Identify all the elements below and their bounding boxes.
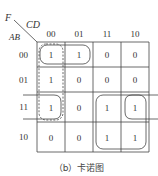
- karnaugh-map: F CD AB 0001111000011110 110010001011001…: [0, 0, 158, 176]
- cell-value: 0: [105, 50, 110, 60]
- row-vars-label: AB: [8, 32, 20, 42]
- cell-value: 0: [77, 133, 82, 143]
- col-label: 11: [103, 29, 112, 39]
- cell-value: 0: [133, 50, 138, 60]
- group-row11-wrap-right: [125, 95, 158, 119]
- cell-value: 1: [105, 103, 110, 113]
- row-label: 10: [19, 132, 29, 142]
- cell-value: 0: [77, 103, 82, 113]
- col-label: 01: [75, 29, 84, 39]
- cell-value: 0: [133, 75, 138, 85]
- row-label: 01: [19, 75, 28, 85]
- figure-caption: （b）卡诺图: [0, 161, 158, 174]
- col-vars-label: CD: [26, 19, 41, 30]
- row-label: 11: [19, 102, 28, 112]
- cell-value: 1: [49, 103, 54, 113]
- output-var-label: F: [4, 12, 12, 23]
- cell-value: 1: [133, 133, 138, 143]
- cell-value: 1: [49, 50, 54, 60]
- row-label: 00: [19, 50, 29, 60]
- col-label: 00: [47, 29, 57, 39]
- cell-value: 1: [133, 103, 138, 113]
- cell-value: 0: [105, 75, 110, 85]
- group-row11-wrap-left: [23, 95, 61, 119]
- cell-value: 1: [105, 133, 110, 143]
- col-label: 10: [131, 29, 141, 39]
- kmap-groups: [23, 44, 158, 149]
- cell-value: 0: [49, 133, 54, 143]
- cell-value: 1: [77, 50, 82, 60]
- cell-value: 0: [77, 75, 82, 85]
- cell-value: 1: [49, 75, 54, 85]
